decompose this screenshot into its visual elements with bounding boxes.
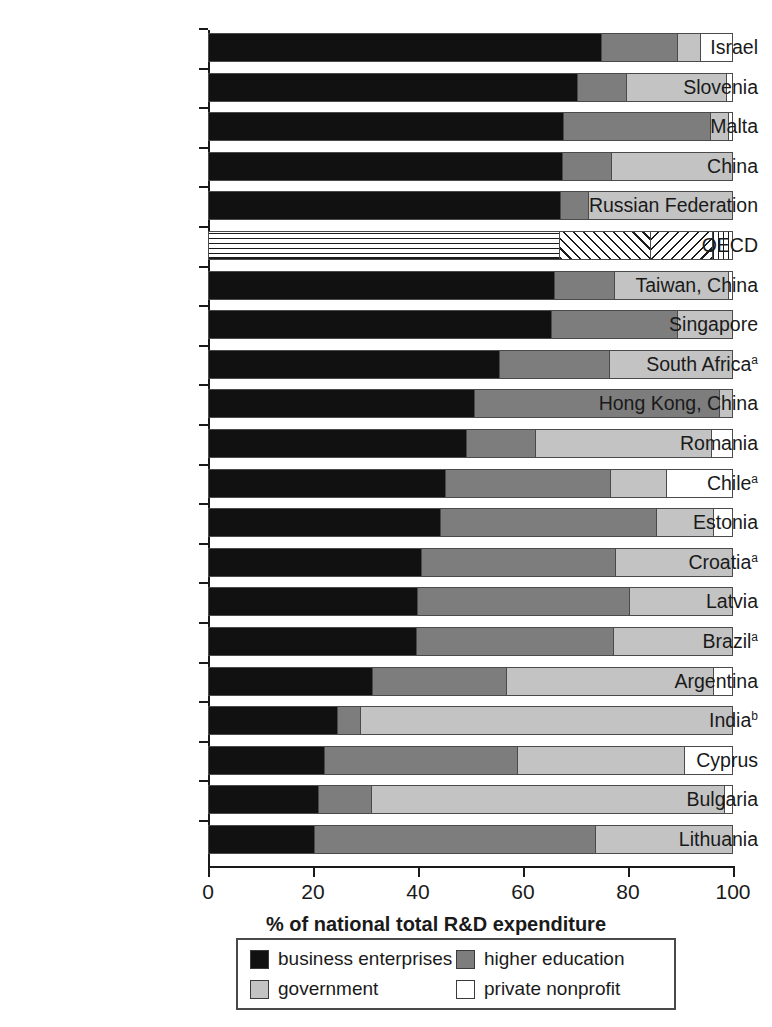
y-axis-tick bbox=[199, 543, 208, 545]
bar-segment-business bbox=[209, 311, 551, 338]
bar-segment-higher bbox=[324, 747, 518, 774]
x-axis-tick-label: 40 bbox=[406, 880, 429, 904]
chart-legend: business enterpriseshigher educationgove… bbox=[236, 938, 676, 1010]
bar-segment-business bbox=[209, 549, 421, 576]
x-axis-title-text: % of national total R&D expenditure bbox=[266, 913, 606, 936]
y-axis-tick bbox=[199, 622, 208, 624]
bar-segment-higher bbox=[318, 786, 371, 813]
bar-segment-business bbox=[209, 390, 474, 417]
y-axis-tick bbox=[199, 780, 208, 782]
y-axis-label-estonia: Estonia bbox=[574, 508, 772, 537]
y-axis-tick bbox=[199, 345, 208, 347]
y-axis-tick bbox=[199, 464, 208, 466]
x-axis-title: % of national total R&D expenditure bbox=[0, 913, 772, 936]
legend-label: higher education bbox=[484, 948, 625, 970]
y-axis-label-chile: Chilea bbox=[574, 469, 772, 498]
bar-segment-business bbox=[209, 192, 560, 219]
x-axis-tick-label: 80 bbox=[616, 880, 639, 904]
bar-segment-business bbox=[209, 747, 324, 774]
x-axis-tick-label: 0 bbox=[202, 880, 214, 904]
legend-item-business-enterprises: business enterprises bbox=[250, 948, 456, 970]
y-axis-label-oecd: OECD bbox=[574, 231, 772, 260]
bar-segment-business bbox=[209, 113, 563, 140]
legend-item-private-nonprofit: private nonprofit bbox=[456, 978, 662, 1000]
x-axis-tick-label: 100 bbox=[715, 880, 750, 904]
footnote-marker: a bbox=[751, 630, 758, 644]
bar-segment-higher bbox=[372, 668, 506, 695]
y-axis-tick bbox=[199, 662, 208, 664]
y-axis-tick bbox=[199, 384, 208, 386]
bar-segment-business bbox=[209, 153, 562, 180]
footnote-marker: a bbox=[751, 550, 758, 564]
y-axis-label-romania: Romania bbox=[574, 429, 772, 458]
y-axis-label-latvia: Latvia bbox=[574, 587, 772, 616]
y-axis-label-russian-federation: Russian Federation bbox=[574, 191, 772, 220]
bar-segment-business bbox=[209, 628, 416, 655]
y-axis-label-india: Indiab bbox=[574, 706, 772, 735]
bar-segment-business bbox=[209, 786, 318, 813]
y-axis-label-hong-kong-china: Hong Kong, China bbox=[574, 389, 772, 418]
y-axis-tick bbox=[199, 266, 208, 268]
y-axis-tick bbox=[199, 186, 208, 188]
y-axis-tick bbox=[199, 503, 208, 505]
y-axis-label-lithuania: Lithuania bbox=[574, 825, 772, 854]
x-axis-tick bbox=[418, 868, 420, 877]
y-axis-tick bbox=[199, 701, 208, 703]
bar-segment-higher bbox=[466, 430, 536, 457]
legend-swatch-icon bbox=[456, 980, 475, 999]
bar-segment-business bbox=[209, 34, 601, 61]
bar-segment-business bbox=[209, 470, 445, 497]
y-axis-tick bbox=[199, 226, 208, 228]
bar-segment-business bbox=[209, 430, 466, 457]
bar-segment-business bbox=[209, 509, 440, 536]
y-axis-tick bbox=[199, 28, 208, 30]
bar-segment-higher bbox=[314, 826, 595, 853]
y-axis-label-taiwan-china: Taiwan, China bbox=[574, 271, 772, 300]
y-axis-label-china: China bbox=[574, 152, 772, 181]
x-axis-tick bbox=[628, 868, 630, 877]
x-axis-tick bbox=[523, 868, 525, 877]
y-axis-label-israel: Israel bbox=[574, 33, 772, 62]
y-axis-label-singapore: Singapore bbox=[574, 310, 772, 339]
legend-item-higher-education: higher education bbox=[456, 948, 662, 970]
y-axis-label-malta: Malta bbox=[574, 112, 772, 141]
bar-segment-business bbox=[209, 74, 577, 101]
y-axis-label-cyprus: Cyprus bbox=[574, 746, 772, 775]
stacked-bar-chart: IsraelSloveniaMaltaChinaRussian Federati… bbox=[0, 0, 772, 1027]
legend-swatch-icon bbox=[250, 950, 269, 969]
y-axis-label-bulgaria: Bulgaria bbox=[574, 785, 772, 814]
y-axis-label-argentina: Argentina bbox=[574, 667, 772, 696]
legend-label: business enterprises bbox=[278, 948, 452, 970]
y-axis-tick bbox=[199, 147, 208, 149]
bar-segment-business bbox=[209, 272, 554, 299]
y-axis-tick bbox=[199, 424, 208, 426]
y-axis-label-croatia: Croatiaa bbox=[574, 548, 772, 577]
bar-segment-business bbox=[209, 351, 499, 378]
bar-segment-business bbox=[209, 707, 337, 734]
x-axis-line bbox=[208, 866, 735, 868]
footnote-marker: b bbox=[751, 709, 758, 723]
x-axis-tick bbox=[208, 868, 210, 877]
bar-segment-business bbox=[209, 668, 372, 695]
footnote-marker: a bbox=[751, 471, 758, 485]
legend-label: government bbox=[278, 978, 378, 1000]
legend-swatch-icon bbox=[250, 980, 269, 999]
legend-label: private nonprofit bbox=[484, 978, 620, 1000]
legend-item-government: government bbox=[250, 978, 456, 1000]
footnote-marker: a bbox=[751, 352, 758, 366]
legend-swatch-icon bbox=[456, 950, 475, 969]
y-axis-tick bbox=[199, 107, 208, 109]
y-axis-tick bbox=[199, 582, 208, 584]
y-axis-label-south-africa: South Africaa bbox=[574, 350, 772, 379]
y-axis-label-slovenia: Slovenia bbox=[574, 73, 772, 102]
y-axis-label-brazil: Brazila bbox=[574, 627, 772, 656]
x-axis-tick-label: 20 bbox=[301, 880, 324, 904]
y-axis-tick bbox=[199, 68, 208, 70]
y-axis-tick bbox=[199, 820, 208, 822]
x-axis-tick bbox=[733, 868, 735, 877]
bar-segment-business bbox=[209, 826, 314, 853]
x-axis-tick-label: 60 bbox=[511, 880, 534, 904]
y-axis-tick bbox=[199, 741, 208, 743]
bar-segment-business bbox=[209, 232, 559, 259]
x-axis-tick bbox=[313, 868, 315, 877]
